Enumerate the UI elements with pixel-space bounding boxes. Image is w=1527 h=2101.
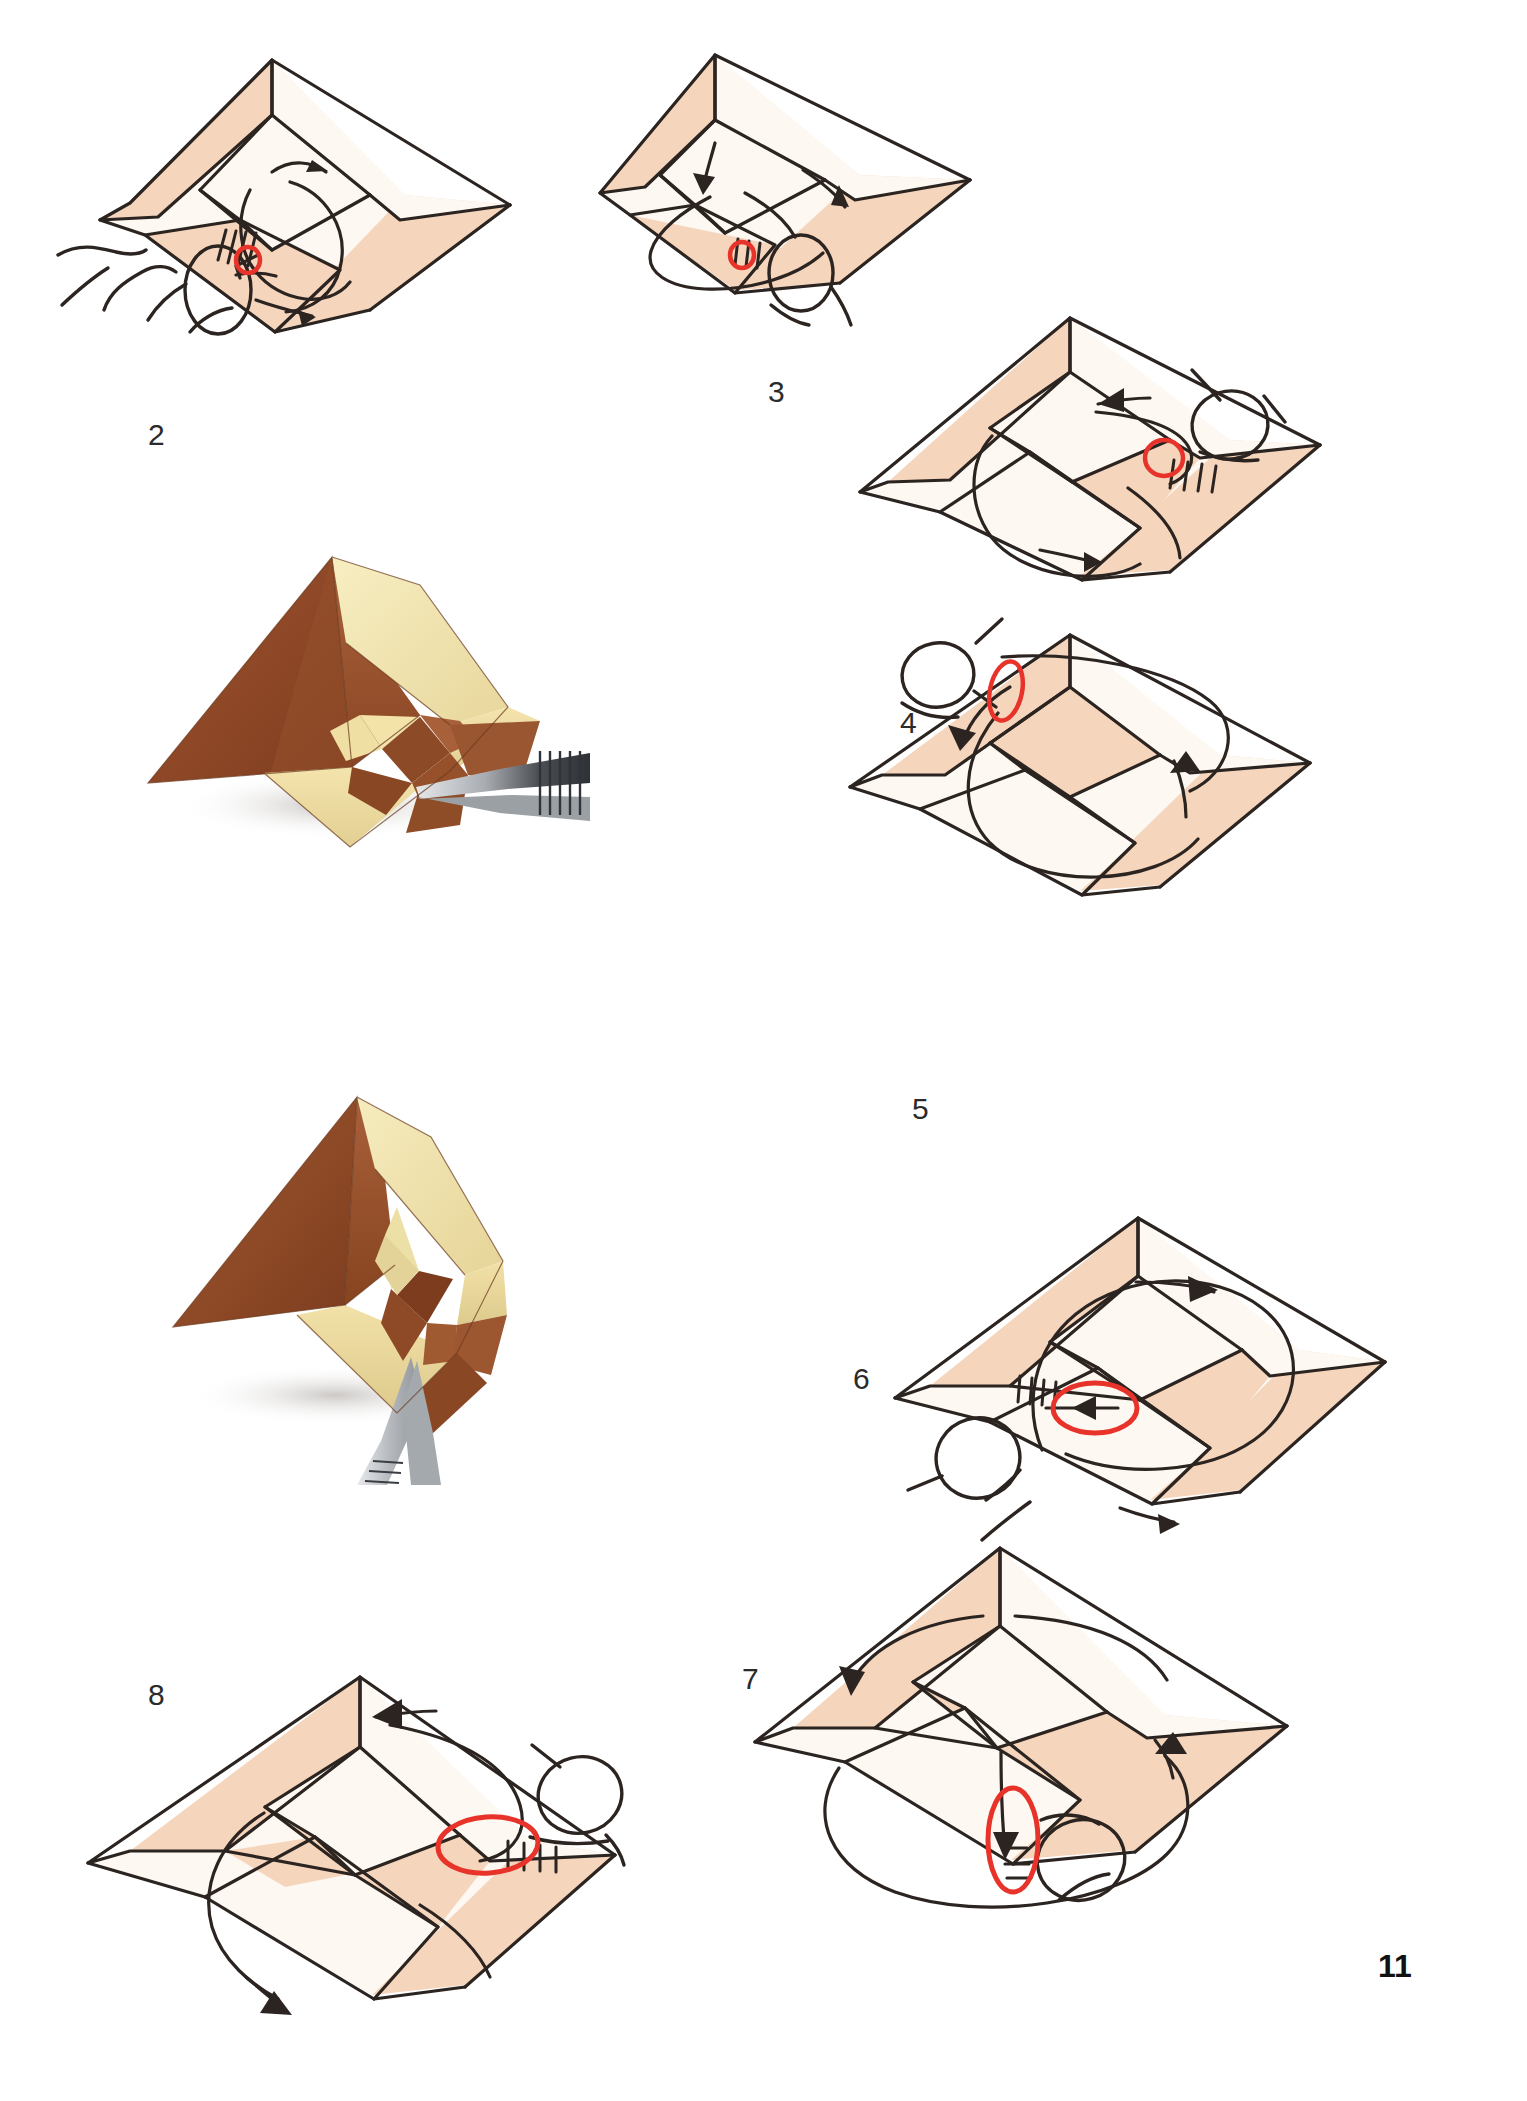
step-4-diagram	[840, 300, 1340, 600]
step-label-3: 3	[768, 375, 785, 409]
step-7-diagram	[735, 1530, 1295, 1890]
paper-shape	[895, 1218, 1385, 1500]
paper-shape	[860, 318, 1320, 576]
step-label-6: 6	[853, 1362, 870, 1396]
step-6-diagram	[850, 1190, 1390, 1520]
photo-a-origami-model	[120, 525, 590, 875]
step-label-2: 2	[148, 418, 165, 452]
paper-shape	[850, 635, 1310, 891]
step-8-diagram	[60, 1655, 620, 2035]
page-number: 11	[1378, 1948, 1412, 1985]
photo-b-origami-model	[135, 1065, 555, 1485]
step-2-diagram	[40, 20, 540, 350]
step-3-diagram	[585, 15, 1055, 335]
origami-instruction-page: 2	[0, 0, 1527, 2101]
step-label-7: 7	[742, 1662, 759, 1696]
step-label-8: 8	[148, 1678, 165, 1712]
step-label-5: 5	[912, 1092, 929, 1126]
paper-shape	[100, 60, 510, 330]
paper-shape	[755, 1548, 1287, 1860]
step-5-diagram	[790, 595, 1320, 915]
